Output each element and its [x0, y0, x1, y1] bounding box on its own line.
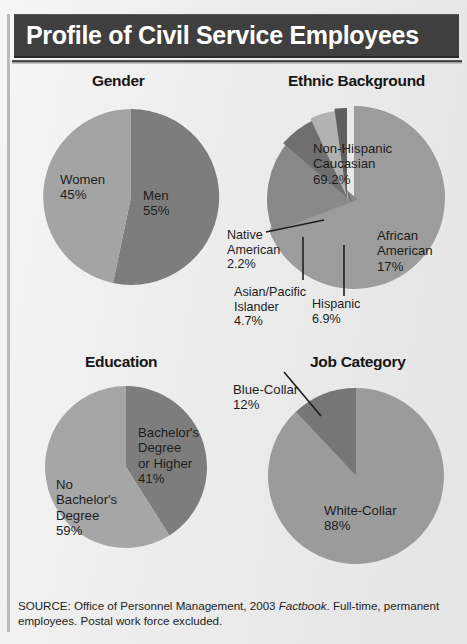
- no-bachelors-label: No Bachelor's Degree 59%: [56, 477, 117, 539]
- men-label: Men 55%: [143, 188, 169, 219]
- header-divider: [12, 60, 462, 64]
- african-american-label: African American 17%: [377, 228, 433, 274]
- blue-collar-label: Blue-Collar 12%: [233, 382, 298, 413]
- source-prefix: SOURCE: Office of Personnel Management, …: [18, 599, 279, 612]
- infographic-page: Profile of Civil Service Employees Gende…: [0, 0, 467, 644]
- page-title: Profile of Civil Service Employees: [26, 20, 456, 50]
- hispanic-label: Hispanic 6.9%: [312, 297, 360, 326]
- women-label: Women 45%: [60, 172, 105, 203]
- asian-pacific-islander-label: Asian/Pacific Islander 4.7%: [234, 285, 306, 329]
- chart-title-ethnic-background: Ethnic Background: [288, 72, 425, 90]
- chart-title-job-category: Job Category: [310, 353, 405, 371]
- bachelors-or-higher-label: Bachelor's Degree or Higher 41%: [138, 425, 199, 487]
- chart-title-gender: Gender: [92, 72, 144, 90]
- non-hispanic-caucasian-label: Non-Hispanic Caucasian 69.2%: [313, 141, 392, 187]
- page-left-rule: [7, 14, 10, 632]
- chart-title-education: Education: [85, 353, 157, 371]
- native-american-label: Native American 2.2%: [227, 228, 280, 272]
- source-note: SOURCE: Office of Personnel Management, …: [18, 598, 456, 628]
- source-italic-title: Factbook: [279, 599, 327, 612]
- white-collar-label: White-Collar 88%: [324, 503, 397, 534]
